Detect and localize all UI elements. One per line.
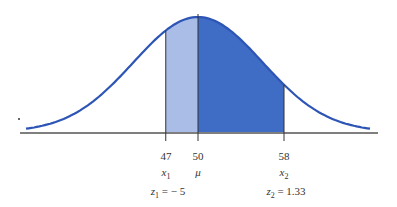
x2-label: x2 bbox=[280, 166, 289, 181]
tick-label-47: 47 bbox=[161, 150, 172, 162]
tick-label-50: 50 bbox=[193, 150, 204, 162]
tick-label-58: 58 bbox=[279, 150, 290, 162]
shaded-region-left bbox=[166, 17, 198, 132]
normal-distribution-chart: 47 50 58 x1 μ x2 z1 = − 5 z2 = 1.33 bbox=[0, 0, 397, 207]
z1-label: z1 = − 5 bbox=[151, 185, 185, 200]
x1-label: x1 bbox=[162, 166, 171, 181]
mu-label: μ bbox=[195, 166, 201, 178]
shaded-region-right bbox=[198, 17, 284, 132]
z2-label: z2 = 1.33 bbox=[266, 185, 305, 200]
dot bbox=[18, 118, 20, 120]
